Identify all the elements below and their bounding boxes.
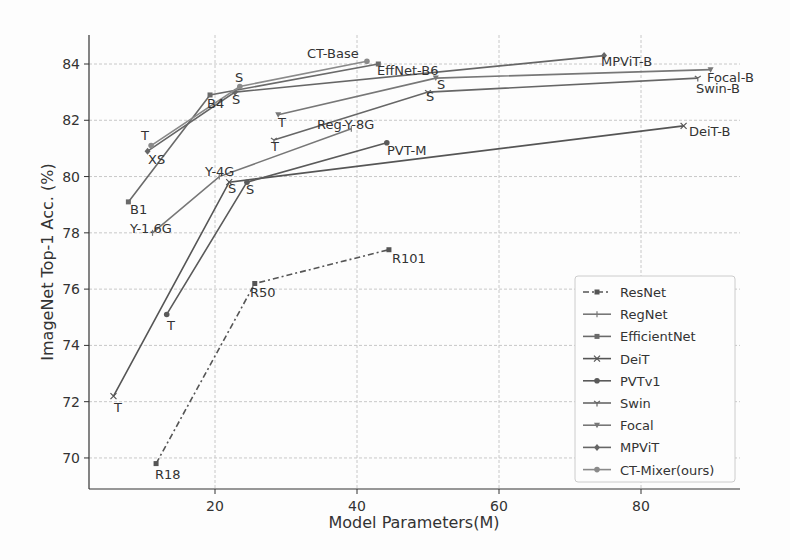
point-label: R101 [392,251,426,266]
point-label: R18 [155,467,181,482]
legend-label: Swin [620,396,651,411]
legend-label: EfficientNet [620,329,696,344]
y-tick-label: 70 [62,450,80,466]
legend-label: PVTv1 [620,374,661,389]
y-tick-label: 84 [62,56,80,72]
x-tick-label: 20 [206,498,224,514]
x-axis-label: Model Parameters(M) [329,513,500,532]
series-focal [275,67,713,118]
point-label: Swin-B [696,81,740,96]
point-label: T [166,318,175,333]
x-axis-ticks: 20406080 [206,489,650,514]
point-label: B4 [207,96,224,111]
point-label: EffNet-B6 [377,63,438,78]
point-label: T [113,400,122,415]
y-tick-label: 78 [62,225,80,241]
legend: ResNetRegNetEfficientNetDeiTPVTv1SwinFoc… [575,276,735,482]
y-axis-label: ImageNet Top-1 Acc. (%) [38,163,57,360]
point-label: Y-1.6G [129,221,172,236]
y-tick-label: 74 [62,337,80,353]
point-label: XS [148,152,165,167]
x-tick-label: 60 [490,498,508,514]
x-tick-label: 80 [632,498,650,514]
point-label: CT-Base [307,46,359,61]
point-label: Y-4G [204,164,234,179]
legend-label: MPViT [620,440,659,455]
series-swin [271,76,701,143]
y-tick-label: 82 [62,112,80,128]
chart: 20406080 7072747678808284 CT-BaseEffNet-… [0,0,790,560]
point-label: MPViT-B [601,54,652,69]
y-tick-label: 72 [62,394,80,410]
point-label: S [426,89,434,104]
legend-label: Focal [620,418,654,433]
point-label: T [140,128,149,143]
y-tick-label: 80 [62,169,80,185]
point-label: S [246,182,254,197]
y-axis-ticks: 7072747678808284 [62,56,89,466]
legend-label: DeiT [620,352,650,367]
point-label: T [270,139,279,154]
legend-label: RegNet [620,307,668,322]
point-label: PVT-M [387,143,426,158]
x-tick-label: 40 [348,498,366,514]
point-label: R50 [250,285,276,300]
y-tick-label: 76 [62,281,80,297]
series-resnet [154,247,392,466]
point-label: S [235,70,243,85]
legend-label: CT-Mixer(ours) [620,463,714,478]
point-label: S [437,77,445,92]
point-label: S [232,92,240,107]
point-label: T [277,115,286,130]
legend-label: ResNet [620,285,666,300]
point-label: B1 [130,202,147,217]
point-label: S [228,181,236,196]
point-label: Reg-Y-8G [317,117,374,132]
point-label: DeiT-B [689,124,731,139]
